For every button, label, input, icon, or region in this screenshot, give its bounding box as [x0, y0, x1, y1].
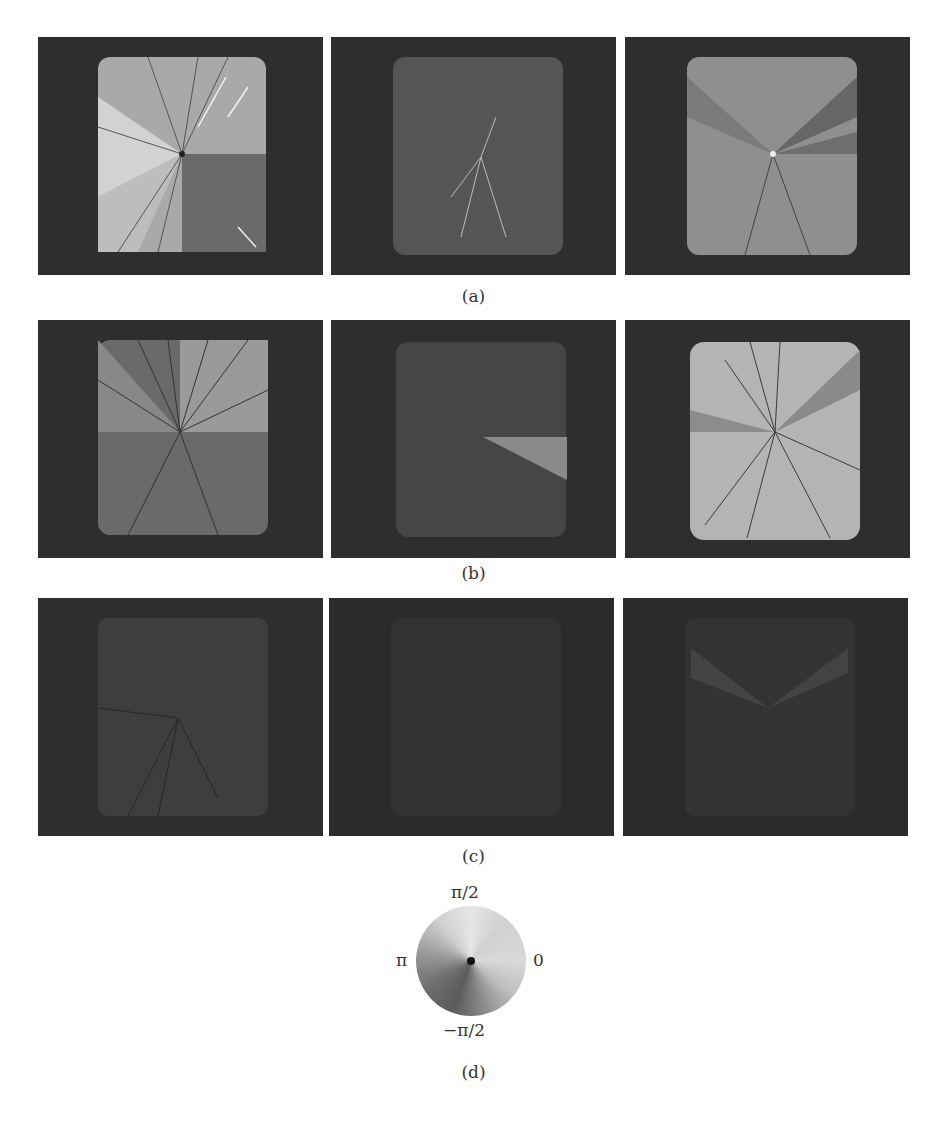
panel-a-right: [625, 37, 910, 275]
radial-pattern-image: [329, 598, 614, 836]
radial-pattern-image: [623, 598, 908, 836]
caption-c: (c): [0, 846, 947, 866]
phase-color-wheel: [416, 906, 526, 1016]
panel-a-middle: [331, 37, 616, 275]
caption-a: (a): [0, 286, 947, 306]
wheel-label-left: π: [396, 950, 407, 970]
radial-pattern-image: [625, 37, 910, 275]
radial-pattern-image: [331, 320, 616, 558]
radial-pattern-image: [38, 37, 323, 275]
caption-d: (d): [0, 1062, 947, 1082]
radial-pattern-image: [38, 320, 323, 558]
panel-a-left: [38, 37, 323, 275]
wheel-center-dot: [467, 957, 475, 965]
panel-b-right: [625, 320, 910, 558]
wheel-label-right: 0: [533, 950, 544, 970]
panel-c-middle: [329, 598, 614, 836]
radial-pattern-image: [625, 320, 910, 558]
radial-pattern-image: [331, 37, 616, 275]
wheel-label-top: π/2: [451, 882, 479, 902]
radial-pattern-image: [38, 598, 323, 836]
panel-b-left: [38, 320, 323, 558]
panel-b-middle: [331, 320, 616, 558]
wheel-label-bottom: −π/2: [443, 1020, 485, 1040]
panel-c-right: [623, 598, 908, 836]
panel-c-left: [38, 598, 323, 836]
caption-b: (b): [0, 563, 947, 583]
